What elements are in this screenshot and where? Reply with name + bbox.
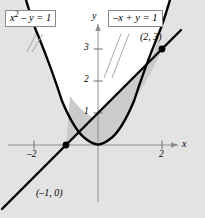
tick-label-x-neg2: –2 <box>27 149 37 159</box>
equation-parabola-suffix: – y = 1 <box>18 12 51 23</box>
tick-label-x-2: 2 <box>159 149 164 159</box>
point-marker-minus1-0 <box>63 142 70 149</box>
axis-label-x: x <box>182 138 186 149</box>
point-marker-2-3 <box>159 46 166 53</box>
equation-line-text: –x + y = 1 <box>113 12 158 23</box>
equation-label-line: –x + y = 1 <box>108 10 163 27</box>
math-figure: x2 – y = 1 –x + y = 1 (2, 3) (–1, 0) –2 … <box>0 0 205 218</box>
leader-line-a <box>104 34 121 78</box>
y-axis-arrowhead <box>95 24 101 31</box>
axis-label-y: y <box>92 10 96 21</box>
tick-label-y-2: 2 <box>84 74 89 84</box>
tick-label-y-3: 3 <box>84 42 89 52</box>
equation-label-parabola: x2 – y = 1 <box>5 10 56 27</box>
point-label-minus1-0: (–1, 0) <box>36 187 63 198</box>
point-label-2-3: (2, 3) <box>140 31 162 42</box>
leader-line-b <box>112 34 129 78</box>
plot-canvas <box>0 0 205 218</box>
tick-label-y-1: 1 <box>84 106 89 116</box>
